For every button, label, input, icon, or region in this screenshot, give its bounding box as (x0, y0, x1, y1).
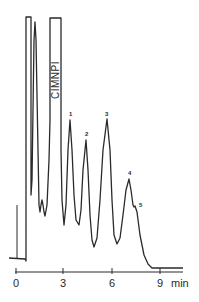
x-axis-unit: min (171, 277, 189, 289)
box-label: CIMNPI (50, 61, 61, 99)
peak-label-1: 1 (69, 111, 73, 117)
peak-label-4: 4 (128, 170, 132, 176)
x-tick-label-3: 3 (60, 277, 66, 289)
chromatogram-chart: CIMNPI 1 2 3 4 5 0 3 6 9 min (0, 0, 199, 302)
x-tick-label-6: 6 (109, 277, 115, 289)
chromatogram-trace (9, 17, 183, 268)
x-tick-label-0: 0 (13, 277, 19, 289)
peak-label-3: 3 (105, 111, 109, 117)
peak-label-5: 5 (139, 202, 143, 208)
peak-label-2: 2 (85, 131, 89, 137)
x-tick-label-9: 9 (157, 277, 163, 289)
